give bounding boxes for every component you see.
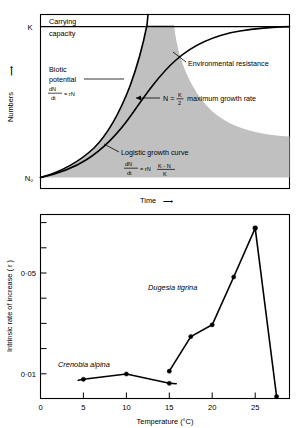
data-point [81,377,85,381]
half-k-suffix: maximum growth rate [187,94,256,103]
y-axis-arrow: ⟶ [7,66,16,76]
x-axis-arrow: ⟶ [163,197,173,206]
plot-frame-bottom [41,215,290,399]
logistic-formula-denominator: dt [127,170,132,176]
y-axis-title-group: Numbers ⟶ [6,66,16,122]
logistic-growth-curve-label: Logistic growth curve [121,148,189,157]
dugesia-tigrina-line [169,228,276,396]
logistic-formula-frac-numerator: K - N [158,163,171,169]
series-label-crenobia-alpina: Crenobia alpina [58,360,110,369]
series-label-dugesia-tigrina: Dugesia tigrina [148,283,197,292]
data-point [167,381,171,385]
x-tick-label-25: 25 [251,403,259,412]
y-axis-title-bottom: Intrinsic rate of increase ( r ) [5,260,14,352]
biotic-potential-label-line1: Biotic [49,65,67,74]
y-tick-N0: N₀ [25,174,34,183]
logistic-formula-frac-denominator: K [163,171,167,177]
x-tick-label-0: 0 [38,403,42,412]
y-axis-ticks [41,223,47,374]
intrinsic-rate-panel: 0·01 0·05 0 5 10 15 20 25 Temperature (°… [0,210,304,428]
y-axis-title-bottom-group: Intrinsic rate of increase ( r ) [5,260,14,352]
biotic-formula-denominator: dt [51,95,56,101]
carrying-capacity-label-line1: Carrying [49,17,76,26]
data-point [253,226,258,231]
biotic-potential-formula: dN dt = rN [48,86,75,101]
data-point [232,275,236,279]
x-axis-ticks [41,393,256,399]
x-tick-label-15: 15 [165,403,173,412]
data-point [275,394,279,398]
logistic-formula-rhs: = rN [140,166,151,172]
y-tick-K: K [27,23,32,32]
ecology-figure: K N₀ Numbers ⟶ Time ⟶ Carrying capacity … [0,0,304,428]
x-tick-label-5: 5 [81,403,85,412]
x-tick-label-10: 10 [122,403,130,412]
biotic-potential-label-line2: potential [49,75,77,84]
series-dugesia-tigrina [167,226,279,399]
logistic-formula-numerator: dN [125,161,132,167]
series-crenobia-alpina [78,372,176,386]
data-point [167,369,171,373]
biotic-formula-numerator: dN [49,86,56,92]
y-axis-title: Numbers [6,92,15,122]
half-k-denominator: 2 [178,100,181,106]
x-tick-label-20: 20 [208,403,216,412]
y-tick-label-0-01: 0·01 [21,370,36,379]
intrinsic-rate-chart: 0·01 0·05 0 5 10 15 20 25 Temperature (°… [0,210,304,428]
population-growth-panel: K N₀ Numbers ⟶ Time ⟶ Carrying capacity … [0,0,304,212]
x-axis-title-bottom: Temperature (°C) [137,417,194,426]
data-point [189,335,193,339]
biotic-formula-rhs: = rN [64,91,75,97]
carrying-capacity-label-line2: capacity [49,29,76,38]
population-growth-chart: K N₀ Numbers ⟶ Time ⟶ Carrying capacity … [0,0,304,212]
data-point [124,372,128,376]
half-k-numerator: K [178,92,182,98]
x-axis-title: Time [140,196,156,205]
y-tick-label-0-05: 0·05 [21,269,36,278]
data-point [210,323,214,327]
half-k-prefix: N = [163,94,174,103]
environmental-resistance-label: Environmental resistance [188,59,269,68]
